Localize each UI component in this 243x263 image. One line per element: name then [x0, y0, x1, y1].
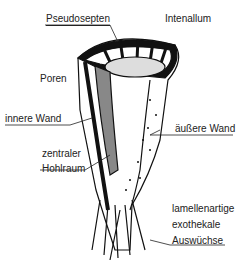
- label-auswuechse: Auswüchse: [172, 235, 223, 247]
- diagram: Pseudosepten Intenallum Poren innere Wan…: [0, 0, 243, 263]
- label-poren: Poren: [40, 73, 67, 85]
- label-innere-wand: innere Wand: [5, 113, 61, 125]
- label-lamellenartige: lamellenartige: [172, 203, 234, 215]
- label-zentraler: zentraler: [42, 148, 81, 160]
- label-intervallum: Intenallum: [165, 13, 211, 25]
- label-aeussere-wand: äußere Wand: [175, 123, 235, 135]
- label-exothekale: exothekale: [172, 219, 220, 231]
- label-pseudosepten: Pseudosepten: [46, 13, 110, 26]
- label-hohlraum: Hohlraum: [42, 163, 85, 175]
